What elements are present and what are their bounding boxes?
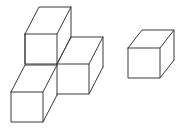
right-single-cube-group [128,30,174,78]
left-cube-group [11,7,103,122]
cube-figure-canvas: Line drawing of a group of four connecte… [0,0,183,132]
lower-front-cube-front-face [11,92,43,122]
lower-front-cube [11,65,57,122]
upper-back-cube-front-face [25,34,57,64]
lower-right-cube-front-face [57,64,89,94]
single-cube-front-face [128,48,160,78]
cube-figure-svg [0,0,183,132]
